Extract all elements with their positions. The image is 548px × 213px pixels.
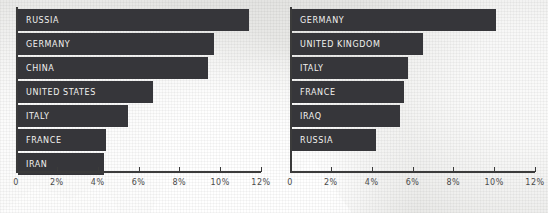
bar-label: GERMANY xyxy=(26,40,70,49)
x-axis-tick xyxy=(139,167,140,172)
x-axis-line-right xyxy=(290,171,535,173)
x-axis-tick xyxy=(98,167,99,172)
bar-label: RUSSIA xyxy=(300,136,333,145)
bar-label: UNITED STATES xyxy=(26,88,96,97)
bar-label: ITALY xyxy=(26,112,49,121)
bar-germany: GERMANY xyxy=(292,9,496,31)
bar-france: FRANCE xyxy=(292,81,404,103)
x-axis-tick xyxy=(535,167,536,172)
x-axis-tick-label: 8% xyxy=(172,178,186,187)
x-axis-line-left xyxy=(16,171,261,173)
x-axis-tick-label: 0 xyxy=(287,178,293,187)
x-axis-tick-label: 0 xyxy=(13,178,19,187)
x-axis-tick-label: 4% xyxy=(365,178,379,187)
bar-row: ITALY xyxy=(292,57,538,79)
bar-united-kingdom: UNITED KINGDOM xyxy=(292,33,423,55)
x-axis-tick-label: 12% xyxy=(525,178,544,187)
x-axis-tick xyxy=(16,167,17,172)
bar-russia: RUSSIA xyxy=(18,9,249,31)
poster-canvas: RUSSIAGERMANYCHINAUNITED STATESITALYFRAN… xyxy=(0,0,548,213)
bar-row: FRANCE xyxy=(18,129,264,151)
bar-list-right: GERMANYUNITED KINGDOMITALYFRANCEIRAQRUSS… xyxy=(292,9,538,171)
bar-row: FRANCE xyxy=(292,81,538,103)
bar-label: FRANCE xyxy=(26,136,62,145)
x-axis-tick xyxy=(372,167,373,172)
x-axis-tick xyxy=(413,167,414,172)
x-axis-tick xyxy=(179,167,180,172)
x-axis-tick xyxy=(331,167,332,172)
bar-china: CHINA xyxy=(18,57,208,79)
bar-chart-left: RUSSIAGERMANYCHINAUNITED STATESITALYFRAN… xyxy=(0,0,274,213)
plot-area-right: GERMANYUNITED KINGDOMITALYFRANCEIRAQRUSS… xyxy=(290,7,538,171)
x-axis-tick xyxy=(261,167,262,172)
bar-row: IRAQ xyxy=(292,105,538,127)
x-axis-tick-label: 12% xyxy=(251,178,270,187)
bar-row: UNITED KINGDOM xyxy=(292,33,538,55)
bar-row: RUSSIA xyxy=(292,129,538,151)
x-axis-tick-label: 2% xyxy=(50,178,64,187)
bar-united-states: UNITED STATES xyxy=(18,81,153,103)
bar-label: UNITED KINGDOM xyxy=(300,40,380,49)
bar-row: GERMANY xyxy=(292,9,538,31)
bar-row: ITALY xyxy=(18,105,264,127)
bar-russia: RUSSIA xyxy=(292,129,376,151)
x-axis-tick-label: 10% xyxy=(211,178,230,187)
x-axis-tick-label: 8% xyxy=(446,178,460,187)
bar-label: CHINA xyxy=(26,64,54,73)
x-axis-tick-label: 6% xyxy=(406,178,420,187)
x-axis-tick-label: 6% xyxy=(132,178,146,187)
plot-area-left: RUSSIAGERMANYCHINAUNITED STATESITALYFRAN… xyxy=(16,7,264,171)
x-axis-tick xyxy=(453,167,454,172)
bar-label: RUSSIA xyxy=(26,16,59,25)
bar-italy: ITALY xyxy=(18,105,128,127)
bar-label: FRANCE xyxy=(300,88,336,97)
bar-label: IRAQ xyxy=(300,112,322,121)
x-axis-tick xyxy=(57,167,58,172)
x-axis-tick xyxy=(290,167,291,172)
bar-iraq: IRAQ xyxy=(292,105,400,127)
bar-label: IRAN xyxy=(26,160,47,169)
bar-row: CHINA xyxy=(18,57,264,79)
x-axis-tick-label: 4% xyxy=(91,178,105,187)
bar-france: FRANCE xyxy=(18,129,106,151)
bar-germany: GERMANY xyxy=(18,33,214,55)
x-axis-tick xyxy=(220,167,221,172)
bar-label: GERMANY xyxy=(300,16,344,25)
bar-italy: ITALY xyxy=(292,57,408,79)
x-axis-tick xyxy=(494,167,495,172)
x-axis-tick-label: 10% xyxy=(485,178,504,187)
bar-chart-right: GERMANYUNITED KINGDOMITALYFRANCEIRAQRUSS… xyxy=(274,0,548,213)
bar-row: RUSSIA xyxy=(18,9,264,31)
bar-label: ITALY xyxy=(300,64,323,73)
bar-row: UNITED STATES xyxy=(18,81,264,103)
x-axis-tick-label: 2% xyxy=(324,178,338,187)
bar-row: GERMANY xyxy=(18,33,264,55)
bar-list-left: RUSSIAGERMANYCHINAUNITED STATESITALYFRAN… xyxy=(18,9,264,171)
